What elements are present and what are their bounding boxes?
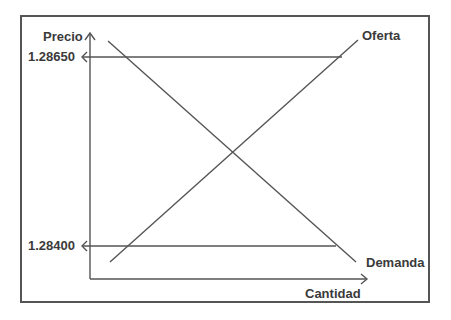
diagram-canvas [0, 0, 451, 320]
price-high-label: 1.28650 [28, 50, 75, 63]
price-low-label: 1.28400 [28, 239, 75, 252]
x-axis-label: Cantidad [305, 287, 361, 300]
supply-curve [110, 40, 358, 262]
supply-label: Oferta [362, 29, 400, 42]
demand-label: Demanda [366, 256, 425, 269]
y-axis-label: Precio [43, 30, 83, 43]
demand-curve [108, 41, 356, 262]
